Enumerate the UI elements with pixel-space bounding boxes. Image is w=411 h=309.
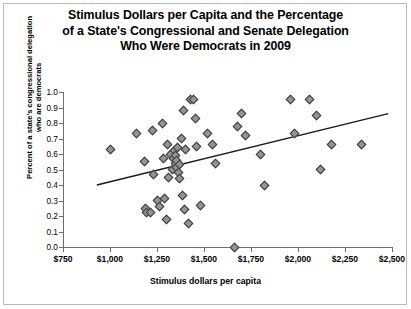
chart-title-line-1: Stimulus Dollars per Capita and the Perc…	[0, 8, 411, 24]
y-tick-label: 0.9	[36, 103, 58, 113]
y-tick-label: 0.0	[36, 242, 58, 252]
y-tick-label: 0.3	[36, 196, 58, 206]
y-tick-label: 0.6	[36, 149, 58, 159]
chart-title: Stimulus Dollars per Capita and the Perc…	[0, 8, 411, 55]
plot-area	[63, 92, 392, 247]
x-tick-mark	[392, 247, 393, 252]
x-tick-mark	[157, 247, 158, 252]
x-tick-mark	[204, 247, 205, 252]
x-tick-mark	[345, 247, 346, 252]
trend-line	[63, 92, 392, 247]
x-axis-title: Stimulus dollars per capita	[0, 276, 411, 286]
chart-figure: Stimulus Dollars per Capita and the Perc…	[0, 0, 411, 309]
x-tick-mark	[63, 247, 64, 252]
x-tick-label: $2,500	[362, 254, 411, 264]
y-tick-label: 0.2	[36, 211, 58, 221]
chart-title-line-3: Who Were Democrats in 2009	[0, 39, 411, 55]
x-axis-line	[63, 247, 393, 248]
y-tick-label: 0.7	[36, 134, 58, 144]
y-tick-label: 0.4	[36, 180, 58, 190]
x-tick-mark	[110, 247, 111, 252]
x-tick-mark	[251, 247, 252, 252]
x-tick-mark	[298, 247, 299, 252]
chart-title-line-2: of a State's Congressional and Senate De…	[0, 24, 411, 40]
y-tick-label: 0.1	[36, 227, 58, 237]
y-tick-label: 0.5	[36, 165, 58, 175]
y-tick-label: 0.8	[36, 118, 58, 128]
y-tick-label: 1.0	[36, 87, 58, 97]
